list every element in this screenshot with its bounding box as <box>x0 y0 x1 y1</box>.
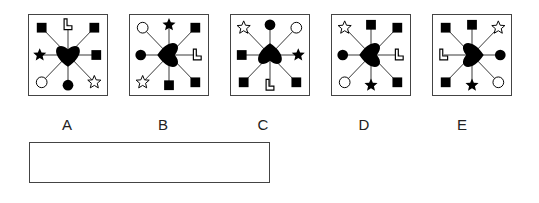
filled-circle-icon <box>337 50 348 61</box>
answer-box[interactable] <box>29 142 270 183</box>
option-label-c[interactable]: C <box>248 116 278 133</box>
filled-circle-icon <box>265 19 276 30</box>
outline-star-icon <box>237 21 250 33</box>
outline-circle-icon <box>339 77 350 88</box>
outline-star-icon <box>338 21 351 33</box>
filled-square-icon <box>467 20 477 30</box>
outline-star-icon <box>492 21 505 33</box>
filled-star-icon <box>465 78 478 90</box>
outline-L-icon <box>395 49 403 60</box>
outline-circle-icon <box>137 22 148 33</box>
filled-square-icon <box>441 77 451 87</box>
filled-square-icon <box>441 23 451 33</box>
option-label-b[interactable]: B <box>148 116 178 133</box>
outline-L-icon <box>193 49 201 60</box>
filled-star-icon <box>33 48 46 60</box>
filled-square-icon <box>190 23 200 33</box>
figure-d-svg <box>332 15 410 95</box>
filled-square-icon <box>37 23 47 33</box>
option-label-d[interactable]: D <box>349 116 379 133</box>
filled-square-icon <box>392 23 402 33</box>
option-a-figure[interactable] <box>28 14 108 96</box>
filled-square-icon <box>366 20 376 30</box>
filled-circle-icon <box>495 50 506 61</box>
filled-square-icon <box>164 80 174 90</box>
filled-star-icon <box>364 78 377 90</box>
filled-star-icon <box>292 48 305 60</box>
option-c-figure[interactable] <box>230 14 310 96</box>
filled-circle-icon <box>135 50 146 61</box>
outline-L-icon <box>440 49 448 60</box>
figure-c-svg <box>231 15 309 95</box>
filled-circle-icon <box>63 80 74 91</box>
outline-L-icon <box>64 19 72 30</box>
outline-circle-icon <box>291 22 302 33</box>
option-d-figure[interactable] <box>331 14 411 96</box>
option-label-e[interactable]: E <box>447 116 477 133</box>
filled-square-icon <box>392 77 402 87</box>
outline-circle-icon <box>493 77 504 88</box>
option-e-figure[interactable] <box>432 14 512 96</box>
filled-square-icon <box>291 77 301 87</box>
figure-b-svg <box>130 15 208 95</box>
filled-square-icon <box>91 50 101 60</box>
filled-square-icon <box>237 50 247 60</box>
option-b-figure[interactable] <box>129 14 209 96</box>
option-label-a[interactable]: A <box>52 116 82 133</box>
filled-square-icon <box>89 23 99 33</box>
filled-square-icon <box>190 77 200 87</box>
figure-e-svg <box>433 15 511 95</box>
outline-circle-icon <box>36 77 47 88</box>
filled-square-icon <box>239 77 249 87</box>
figure-a-svg <box>29 15 107 95</box>
